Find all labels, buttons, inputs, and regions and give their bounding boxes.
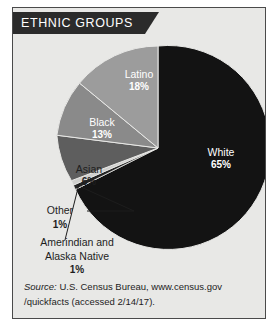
pie-label-amerindian-line2: Alaska Native bbox=[15, 250, 139, 264]
source-label: Source: bbox=[24, 281, 57, 292]
pie-label-amerindian-value: 1% bbox=[15, 263, 139, 276]
pie-label-amerindian-alaska-native: Amerindian and Alaska Native 1% bbox=[15, 236, 139, 276]
source-note: Source: U.S. Census Bureau, www.census.g… bbox=[24, 280, 256, 309]
source-line-1: U.S. Census Bureau, www.census.gov bbox=[57, 281, 222, 292]
source-line-2: /quickfacts (accessed 2/14/17). bbox=[24, 296, 155, 307]
pie-label-other-name: Other bbox=[27, 204, 93, 218]
pie-label-other: Other 1% bbox=[27, 204, 93, 231]
figure-panel: ETHNIC GROUPS Latino 18 bbox=[12, 7, 266, 319]
pie-label-other-value: 1% bbox=[27, 218, 93, 231]
pie-chart: Latino 18% Black 13% Asian 6% White 65% … bbox=[13, 8, 265, 318]
pie-label-amerindian-line1: Amerindian and bbox=[15, 236, 139, 250]
